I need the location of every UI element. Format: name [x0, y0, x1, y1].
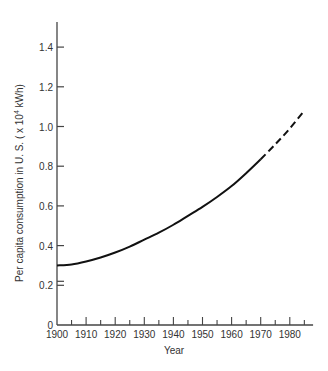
x-tick-label: 1950 [191, 329, 214, 340]
y-tick-label: 0.8 [39, 161, 53, 172]
data-series [57, 111, 304, 266]
x-tick-label: 1940 [162, 329, 185, 340]
x-tick-label: 1910 [75, 329, 98, 340]
y-tick-label: 0.4 [39, 241, 53, 252]
y-axis-label: Per capita consumption in U. S. ( x 104 … [13, 84, 25, 282]
y-tick-label: 0.6 [39, 201, 53, 212]
x-tick-label: 1920 [104, 329, 127, 340]
x-tick-label: 1960 [220, 329, 243, 340]
x-tick-label: 1900 [46, 329, 69, 340]
energy-consumption-chart: 00.20.40.60.81.01.21.4 19001910192019301… [0, 0, 328, 371]
y-tick-label: 1.0 [39, 122, 53, 133]
y-axis-ticks: 00.20.40.60.81.01.21.4 [39, 42, 64, 331]
projected-line [261, 111, 305, 160]
historical-line [57, 159, 261, 265]
x-tick-label: 1980 [279, 329, 302, 340]
y-tick-label: 1.4 [39, 42, 53, 53]
x-axis-label: Year [164, 345, 185, 356]
axes [57, 22, 313, 325]
y-tick-label: 0.2 [39, 280, 53, 291]
x-axis-ticks: 190019101920193019401950196019701980 [46, 317, 304, 340]
x-tick-label: 1970 [250, 329, 273, 340]
x-tick-label: 1930 [133, 329, 156, 340]
y-tick-label: 1.2 [39, 82, 53, 93]
